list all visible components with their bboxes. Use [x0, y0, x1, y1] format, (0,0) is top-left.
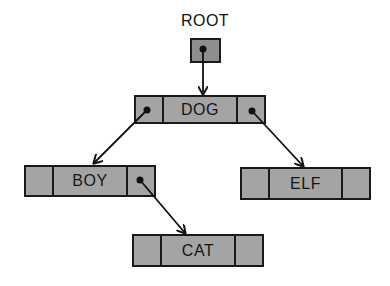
cat-right-pointer	[236, 236, 262, 265]
elf-right-pointer	[343, 169, 369, 198]
node-elf: ELF	[240, 167, 371, 200]
node-boy: BOY	[24, 165, 156, 197]
root-pointer-box	[190, 38, 221, 63]
root-label: ROOT	[175, 12, 235, 30]
boy-key: BOY	[52, 167, 128, 195]
node-cat: CAT	[132, 234, 264, 267]
cat-key: CAT	[160, 236, 236, 265]
dog-key: DOG	[162, 97, 238, 122]
boy-right-pointer	[128, 167, 154, 195]
dog-left-pointer	[136, 97, 162, 122]
elf-key: ELF	[268, 169, 343, 198]
cat-left-pointer	[134, 236, 160, 265]
tree-diagram: ROOT DOG BOY ELF CAT	[0, 0, 390, 286]
node-dog: DOG	[134, 95, 266, 124]
boy-left-pointer	[26, 167, 52, 195]
dog-right-pointer	[238, 97, 264, 122]
elf-left-pointer	[242, 169, 268, 198]
